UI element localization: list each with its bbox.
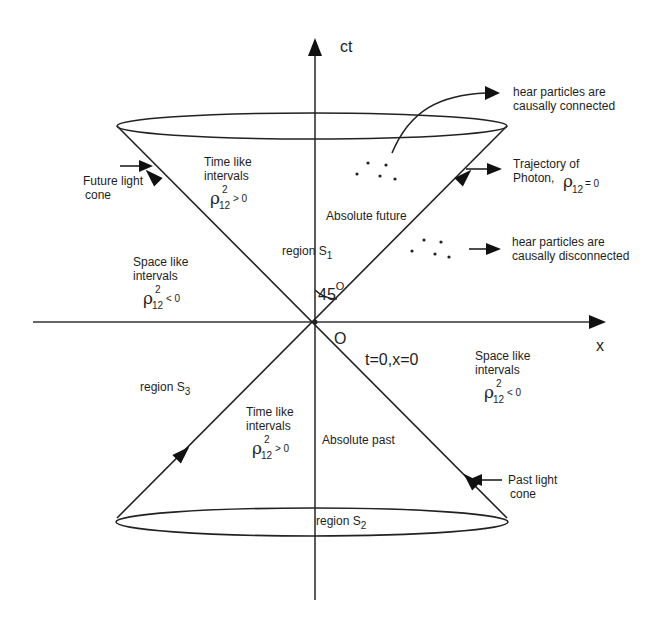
- svg-text:Photon,: Photon,: [513, 171, 554, 185]
- svg-text:hear particles are: hear particles are: [512, 235, 605, 249]
- past-light-cone-annotation: Past light cone: [468, 473, 558, 501]
- svg-text:Time like: Time like: [204, 155, 252, 169]
- region-s2-label: region S2: [316, 514, 367, 531]
- svg-text:12: 12: [152, 300, 164, 311]
- photon-trajectory-annotation: Trajectory of Photon, ρ 12 = 0: [466, 157, 600, 195]
- light-cone-diagram: ct x 45O O t=0,x=0 region S1 Absolute fu…: [0, 0, 668, 630]
- photon-pointer-arrow-icon: [487, 163, 502, 175]
- svg-text:Past light: Past light: [508, 473, 558, 487]
- x-axis-arrowhead-icon: [589, 315, 606, 329]
- origin-condition: t=0,x=0: [365, 351, 418, 368]
- absolute-past-label: Absolute past: [322, 433, 395, 447]
- svg-text:cone: cone: [85, 188, 111, 202]
- disconnected-annotation: hear particles are causally disconnected: [469, 235, 629, 263]
- past-left-arrowhead-icon: [172, 442, 193, 463]
- region-s1-label: region S1: [282, 244, 333, 261]
- disconnected-particles: [410, 238, 450, 258]
- svg-text:Trajectory of: Trajectory of: [513, 157, 580, 171]
- angle-label: 45O: [318, 280, 345, 303]
- svg-text:2: 2: [222, 184, 228, 195]
- svg-text:cone: cone: [510, 487, 536, 501]
- svg-text:causally connected: causally connected: [513, 99, 615, 113]
- svg-text:12: 12: [261, 450, 273, 461]
- svg-text:intervals: intervals: [204, 169, 249, 183]
- future-light-cone-annotation: Future light cone: [83, 160, 153, 202]
- svg-text:< 0: < 0: [507, 387, 522, 398]
- connected-particles: [355, 161, 396, 180]
- spacelike-right-interval: Space like intervals ρ 2 12 < 0: [475, 349, 531, 405]
- connected-pointer-arrow-icon: [485, 86, 500, 100]
- region-s3-label: region S3: [140, 380, 191, 397]
- svg-text:Time like: Time like: [246, 405, 294, 419]
- svg-text:< 0: < 0: [166, 293, 181, 304]
- svg-text:12: 12: [572, 184, 584, 195]
- disconnected-pointer-arrow-icon: [486, 243, 501, 255]
- origin-label: O: [334, 330, 346, 347]
- svg-text:2: 2: [264, 434, 270, 445]
- timelike-future-interval: Time like intervals ρ 2 12 > 0: [204, 155, 252, 211]
- future-cone-ellipse: [117, 113, 507, 139]
- ct-axis-arrowhead-icon: [308, 38, 322, 56]
- svg-text:> 0: > 0: [233, 193, 248, 204]
- svg-text:12: 12: [219, 200, 231, 211]
- svg-text:Future light: Future light: [83, 174, 144, 188]
- svg-text:intervals: intervals: [475, 363, 520, 377]
- svg-text:intervals: intervals: [133, 269, 178, 283]
- svg-text:12: 12: [493, 394, 505, 405]
- spacelike-left-interval: Space like intervals ρ 2 12 < 0: [133, 255, 189, 311]
- svg-text:2: 2: [155, 284, 161, 295]
- x-axis-label: x: [596, 337, 604, 354]
- svg-text:causally disconnected: causally disconnected: [512, 249, 629, 263]
- svg-text:intervals: intervals: [246, 419, 291, 433]
- x-axis: [33, 315, 606, 329]
- svg-text:= 0: = 0: [585, 178, 600, 189]
- svg-text:2: 2: [496, 378, 502, 389]
- ct-axis-label: ct: [340, 38, 353, 55]
- origin-point: [313, 320, 318, 325]
- absolute-future-label: Absolute future: [326, 209, 407, 223]
- past-cone-ellipse: [116, 508, 508, 536]
- connected-annotation: hear particles are causally connected: [392, 85, 615, 153]
- svg-text:Space like: Space like: [475, 349, 531, 363]
- svg-text:hear particles are: hear particles are: [513, 85, 606, 99]
- svg-text:Space like: Space like: [133, 255, 189, 269]
- svg-text:> 0: > 0: [275, 443, 290, 454]
- timelike-past-interval: Time like intervals ρ 2 12 > 0: [246, 405, 294, 461]
